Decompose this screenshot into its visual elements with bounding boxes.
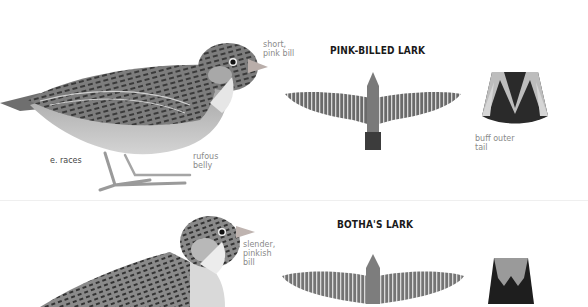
annotation-race: e. races (50, 156, 82, 165)
plate-divider (0, 200, 588, 201)
bothas-lark-flight-illustration (280, 254, 466, 304)
pink-billed-lark-flight-illustration (283, 70, 463, 152)
pink-billed-lark-perched-illustration (0, 35, 270, 200)
pinkish-bill (236, 226, 255, 238)
bothas-lark-tail-illustration (486, 254, 536, 304)
annotation-bill: short, pink bill (263, 40, 294, 58)
annotation-slender-bill: slender, pinkish bill (243, 240, 275, 267)
pink-billed-lark-tail-illustration (480, 70, 550, 130)
annotation-belly: rufous belly (193, 152, 218, 170)
annotation-tail: buff outer tail (475, 134, 515, 152)
pink-bill (248, 59, 268, 73)
bothas-lark-perched-illustration (40, 212, 270, 307)
species-title: PINK-BILLED LARK (330, 44, 425, 57)
species-title: BOTHA'S LARK (337, 218, 413, 231)
